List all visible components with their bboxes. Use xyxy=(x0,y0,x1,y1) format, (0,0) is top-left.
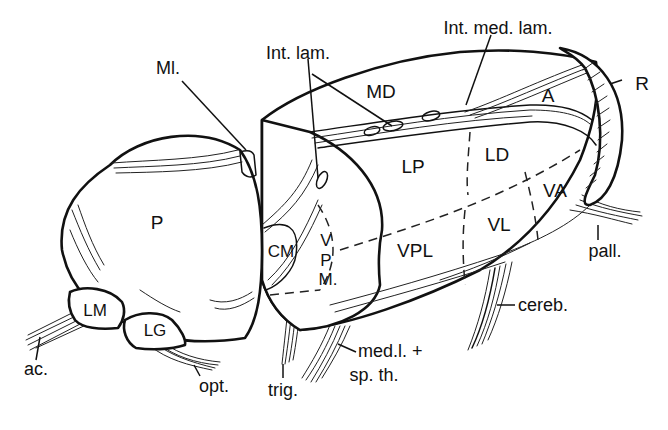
label-lateral-geniculate: LG xyxy=(144,321,167,340)
label-anterior: A xyxy=(542,85,555,106)
label-medial-geniculate: LM xyxy=(83,301,107,320)
label-vpm-v: V xyxy=(320,231,332,250)
label-pulvinar: P xyxy=(151,212,164,233)
label-ventral-anterior: VA xyxy=(543,180,567,201)
label-lateral-posterior: LP xyxy=(401,156,424,177)
label-vpm-p: P xyxy=(320,251,331,270)
label-medial-lemniscus: med.l. + xyxy=(358,341,423,361)
medial-lemniscus-fibers xyxy=(302,325,350,382)
label-int-med-lam: Int. med. lam. xyxy=(443,18,552,38)
pallidal-fibers xyxy=(570,195,642,224)
label-optic: opt. xyxy=(199,376,229,396)
label-acoustic: ac. xyxy=(24,359,48,379)
label-ventral-lateral: VL xyxy=(487,214,510,235)
label-ml: Ml. xyxy=(156,58,180,78)
label-cerebellar: cereb. xyxy=(518,295,568,315)
label-trigeminal: trig. xyxy=(268,380,298,400)
label-centromedian: CM xyxy=(268,242,294,261)
label-spinothalamic: sp. th. xyxy=(349,365,398,385)
label-int-lam: Int. lam. xyxy=(266,43,330,63)
label-vpm-m: M. xyxy=(319,270,338,289)
label-ventral-posterolateral: VPL xyxy=(397,240,433,261)
label-reticular: R xyxy=(635,73,649,94)
label-pallidal: pall. xyxy=(588,241,621,261)
thalamus-diagram: P LM LG CM V P M. MD A LP LD VA VL VPL R… xyxy=(0,0,668,430)
cerebellar-fibers xyxy=(468,262,512,350)
label-mediodorsal: MD xyxy=(366,81,396,102)
label-lateral-dorsal: LD xyxy=(485,144,509,165)
